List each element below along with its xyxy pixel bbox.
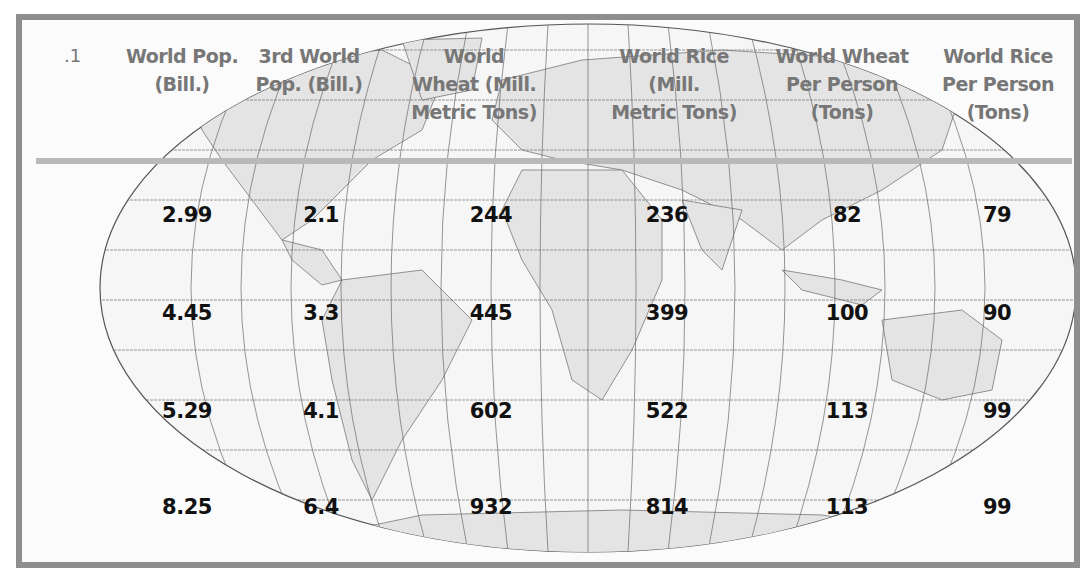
table-cell: 6.4: [266, 494, 376, 520]
table-cell: 244: [436, 202, 546, 228]
header-line: Pop. (Bill.): [244, 70, 374, 98]
table-cell: 814: [612, 494, 722, 520]
table-cell: 4.45: [132, 300, 242, 326]
column-header-third-world-pop: 3rd World Pop. (Bill.): [244, 42, 374, 98]
table-cell: 79: [942, 202, 1052, 228]
column-header-wheat-per-person: World Wheat Per Person (Tons): [762, 42, 922, 126]
header-line: (Bill.): [122, 70, 242, 98]
table-cell: 236: [612, 202, 722, 228]
table-number: .1: [64, 42, 81, 70]
column-header-rice-per-person: World Rice Per Person (Tons): [928, 42, 1068, 126]
column-header-world-pop: World Pop. (Bill.): [122, 42, 242, 98]
header-line: World Pop.: [122, 42, 242, 70]
table-cell: 100: [792, 300, 902, 326]
header-line: 3rd World: [244, 42, 374, 70]
header-divider: [36, 158, 1072, 164]
table-cell: 2.99: [132, 202, 242, 228]
header-line: World Rice: [928, 42, 1068, 70]
table-cell: 99: [942, 398, 1052, 424]
table-cell: 4.1: [266, 398, 376, 424]
header-line: World Rice: [594, 42, 754, 70]
header-line: Metric Tons): [394, 98, 554, 126]
table-cell: 99: [942, 494, 1052, 520]
table-cell: 932: [436, 494, 546, 520]
header-line: Per Person: [762, 70, 922, 98]
header-line: Wheat (Mill.: [394, 70, 554, 98]
table-cell: 602: [436, 398, 546, 424]
table-cell: 113: [792, 494, 902, 520]
table-cell: 445: [436, 300, 546, 326]
table-cell: 3.3: [266, 300, 376, 326]
header-line: (Tons): [928, 98, 1068, 126]
header-line: (Mill.: [594, 70, 754, 98]
table-cell: 399: [612, 300, 722, 326]
table-cell: 8.25: [132, 494, 242, 520]
table-frame: .1 World Pop. (Bill.) 3rd World Pop. (Bi…: [16, 14, 1080, 568]
header-line: (Tons): [762, 98, 922, 126]
table-cell: 113: [792, 398, 902, 424]
table-cell: 2.1: [266, 202, 376, 228]
header-line: World: [394, 42, 554, 70]
header-line: Per Person: [928, 70, 1068, 98]
column-header-world-rice: World Rice (Mill. Metric Tons): [594, 42, 754, 126]
header-line: World Wheat: [762, 42, 922, 70]
column-header-world-wheat: World Wheat (Mill. Metric Tons): [394, 42, 554, 126]
table-cell: 90: [942, 300, 1052, 326]
table-cell: 5.29: [132, 398, 242, 424]
table-cell: 82: [792, 202, 902, 228]
header-line: Metric Tons): [594, 98, 754, 126]
table-cell: 522: [612, 398, 722, 424]
